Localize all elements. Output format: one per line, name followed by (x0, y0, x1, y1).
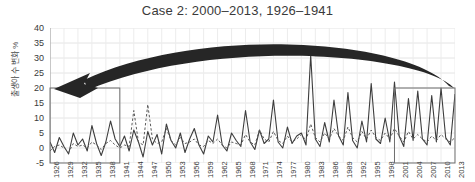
x-tick-label: 1998 (388, 161, 396, 178)
x-tick-label: 1965 (235, 161, 243, 178)
x-tick-label: 1947 (151, 161, 159, 178)
y-tick-label: -5 (22, 159, 44, 168)
y-axis-ticks: 4035302520151050-5 (22, 0, 44, 182)
x-tick-label: 1971 (262, 161, 270, 178)
x-tick-label: 1977 (290, 161, 298, 178)
x-tick-label: 1944 (137, 161, 145, 178)
x-tick-label: 1926 (53, 161, 61, 178)
data-line-solid (50, 55, 455, 157)
x-tick-label: 2001 (402, 161, 410, 178)
x-axis-ticks: 1926192919321935193819411944194719501953… (50, 148, 455, 182)
x-tick-label: 1962 (221, 161, 229, 178)
plot-area (50, 28, 455, 163)
y-tick-label: 10 (22, 114, 44, 123)
x-tick-label: 2004 (416, 161, 424, 178)
x-tick-label: 2013 (458, 161, 466, 178)
x-tick-label: 1941 (123, 161, 131, 178)
y-tick-label: 25 (22, 69, 44, 78)
y-tick-label: 20 (22, 84, 44, 93)
x-tick-label: 1968 (249, 161, 257, 178)
x-tick-label: 1959 (207, 161, 215, 178)
chart-title: Case 2: 2000–2013, 1926–1941 (0, 3, 475, 18)
x-tick-label: 1983 (318, 161, 326, 178)
y-tick-label: 0 (22, 144, 44, 153)
x-tick-label: 1932 (81, 161, 89, 178)
x-tick-label: 1935 (95, 161, 103, 178)
x-tick-label: 1938 (109, 161, 117, 178)
y-tick-label: 5 (22, 129, 44, 138)
x-tick-label: 1950 (165, 161, 173, 178)
chart-container: Case 2: 2000–2013, 1926–1941 출생아 수 변화 % … (0, 0, 475, 182)
x-tick-label: 1986 (332, 161, 340, 178)
y-tick-label: 15 (22, 99, 44, 108)
x-tick-label: 1989 (346, 161, 354, 178)
x-tick-label: 1995 (374, 161, 382, 178)
x-tick-label: 2010 (444, 161, 452, 178)
x-tick-label: 2007 (430, 161, 438, 178)
x-tick-label: 1956 (193, 161, 201, 178)
x-tick-label: 1929 (67, 161, 75, 178)
x-tick-label: 1980 (304, 161, 312, 178)
x-tick-label: 1953 (179, 161, 187, 178)
x-tick-label: 1992 (360, 161, 368, 178)
y-tick-label: 35 (22, 39, 44, 48)
y-axis-label: 출생아 수 변화 % (9, 40, 20, 100)
data-series-layer (50, 28, 455, 163)
y-tick-label: 30 (22, 54, 44, 63)
x-tick-label: 1974 (276, 161, 284, 178)
y-tick-label: 40 (22, 24, 44, 33)
